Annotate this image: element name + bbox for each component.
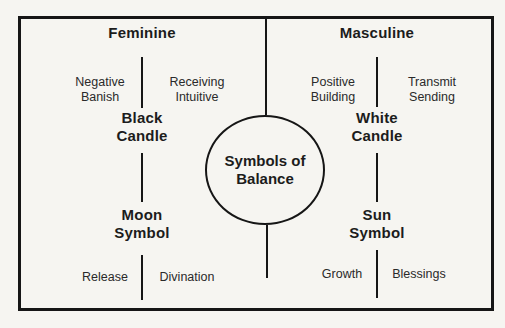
growth-label: Growth <box>322 267 362 282</box>
masculine-axis-lower-line <box>376 250 378 298</box>
feminine-heading: Feminine <box>108 24 175 42</box>
receiving-intuitive-label: Receiving Intuitive <box>170 75 225 105</box>
black-candle-label: Black Candle <box>116 109 167 144</box>
transmit-sending-label: Transmit Sending <box>408 75 456 105</box>
balance-circle: Symbols of Balance <box>205 115 325 225</box>
negative-banish-label: Negative Banish <box>75 75 124 105</box>
masculine-heading: Masculine <box>340 24 414 42</box>
white-candle-label: White Candle <box>351 109 402 144</box>
divination-label: Divination <box>160 270 215 285</box>
masculine-axis-upper-line <box>376 57 378 107</box>
feminine-axis-upper-line <box>141 57 143 108</box>
release-label: Release <box>82 270 128 285</box>
blessings-label: Blessings <box>392 267 446 282</box>
masculine-axis-middle-line <box>376 153 378 202</box>
sun-symbol-label: Sun Symbol <box>349 206 404 241</box>
feminine-axis-middle-line <box>141 153 143 202</box>
positive-building-label: Positive Building <box>311 75 355 105</box>
moon-symbol-label: Moon Symbol <box>114 206 169 241</box>
feminine-axis-lower-line <box>141 255 143 300</box>
center-divider-lower-line <box>266 225 268 278</box>
center-divider-upper-line <box>265 16 267 115</box>
balance-circle-label: Symbols of Balance <box>225 152 306 188</box>
